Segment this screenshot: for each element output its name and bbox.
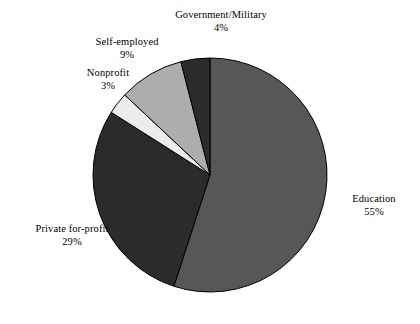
slice-label-self-employed: Self-employed 9% <box>62 35 192 61</box>
slice-label-private-for-profit-percent: 29% <box>2 235 142 248</box>
slice-label-government-military: Government/Military 4% <box>141 8 301 34</box>
slice-label-self-employed-name: Self-employed <box>62 35 192 48</box>
slice-label-nonprofit-percent: 3% <box>48 79 168 92</box>
slice-label-private-for-profit-name: Private for-profit <box>2 222 142 235</box>
slice-label-nonprofit: Nonprofit 3% <box>48 66 168 92</box>
pie-slices-group <box>93 58 327 292</box>
pie-chart: Education 55% Private for-profit 29% Non… <box>0 0 420 324</box>
slice-label-education-name: Education <box>330 192 418 205</box>
slice-label-private-for-profit: Private for-profit 29% <box>2 222 142 248</box>
slice-label-self-employed-percent: 9% <box>62 48 192 61</box>
slice-label-government-military-name: Government/Military <box>141 8 301 21</box>
slice-label-education: Education 55% <box>330 192 418 218</box>
slice-label-nonprofit-name: Nonprofit <box>48 66 168 79</box>
slice-label-government-military-percent: 4% <box>141 21 301 34</box>
slice-label-education-percent: 55% <box>330 205 418 218</box>
